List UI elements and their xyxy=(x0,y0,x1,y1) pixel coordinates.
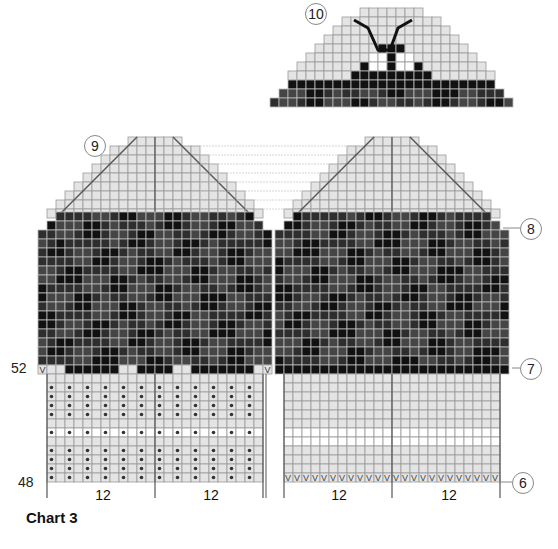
chart-cell xyxy=(500,239,509,248)
chart-cell xyxy=(302,275,311,284)
purl-dot xyxy=(212,458,216,462)
chart-cell xyxy=(227,248,236,257)
chart-cell xyxy=(200,338,209,347)
chart-cell xyxy=(200,212,209,221)
chart-cell xyxy=(410,182,419,191)
chart-cell xyxy=(446,365,455,374)
chart-cell xyxy=(329,446,338,455)
chart-cell xyxy=(383,374,392,383)
chart-cell xyxy=(392,374,401,383)
chart-cell xyxy=(137,239,146,248)
chart-cell xyxy=(401,338,410,347)
chart-cell xyxy=(437,284,446,293)
chart-cell xyxy=(405,26,414,35)
chart-cell xyxy=(419,446,428,455)
chart-cell xyxy=(155,329,164,338)
purl-dot xyxy=(68,431,72,435)
chart-cell xyxy=(293,248,302,257)
chart-cell xyxy=(360,53,369,62)
chart-cell xyxy=(146,365,155,374)
chart-cell xyxy=(311,356,320,365)
chart-cell xyxy=(191,284,200,293)
chart-cell xyxy=(128,338,137,347)
chart-cell xyxy=(270,98,279,107)
chart-cell xyxy=(56,446,65,455)
chart-cell xyxy=(455,401,464,410)
chart-cell xyxy=(101,293,110,302)
chart-cell xyxy=(315,89,324,98)
chart-cell xyxy=(347,383,356,392)
chart-cell xyxy=(351,89,360,98)
chart-cell xyxy=(182,401,191,410)
chart-cell xyxy=(500,347,509,356)
repeat-label-1: 12 xyxy=(73,487,133,503)
chart-cell xyxy=(374,173,383,182)
chart-cell xyxy=(459,44,468,53)
chart-cell xyxy=(464,182,473,191)
chart-cell xyxy=(441,62,450,71)
chart-cell xyxy=(254,347,263,356)
chart-cell xyxy=(356,275,365,284)
chart-cell xyxy=(446,248,455,257)
chart-cell xyxy=(437,329,446,338)
chart-cell xyxy=(468,89,477,98)
chart-cell xyxy=(338,320,347,329)
chart-cell xyxy=(347,173,356,182)
purl-dot xyxy=(212,476,216,480)
chart-cell xyxy=(369,62,378,71)
chart-cell xyxy=(209,320,218,329)
chart-cell xyxy=(110,329,119,338)
chart-cell xyxy=(320,464,329,473)
chart-cell xyxy=(428,182,437,191)
chart-cell xyxy=(128,401,137,410)
chart-cell xyxy=(245,275,254,284)
chart-cell xyxy=(410,200,419,209)
chart-cell xyxy=(392,428,401,437)
chart-cell xyxy=(164,410,173,419)
slip-stitch-symbol: V xyxy=(339,473,345,483)
chart-cell xyxy=(200,419,209,428)
chart-cell xyxy=(155,137,164,146)
purl-dot xyxy=(140,404,144,408)
chart-cell xyxy=(455,257,464,266)
chart-cell xyxy=(137,230,146,239)
chart-cell xyxy=(342,35,351,44)
chart-cell xyxy=(437,191,446,200)
chart-cell xyxy=(383,284,392,293)
chart-cell xyxy=(419,311,428,320)
chart-cell xyxy=(441,71,450,80)
chart-cell xyxy=(83,419,92,428)
chart-cell xyxy=(164,266,173,275)
chart-cell xyxy=(455,383,464,392)
chart-cell xyxy=(491,275,500,284)
chart-cell xyxy=(128,212,137,221)
chart-cell xyxy=(405,80,414,89)
chart-cell xyxy=(482,374,491,383)
chart-cell xyxy=(396,8,405,17)
chart-cell xyxy=(227,365,236,374)
chart-cell xyxy=(410,293,419,302)
chart-cell xyxy=(446,320,455,329)
chart-cell xyxy=(437,221,446,230)
chart-cell xyxy=(110,302,119,311)
chart-cell xyxy=(65,437,74,446)
chart-cell xyxy=(342,53,351,62)
chart-cell xyxy=(446,419,455,428)
purl-dot xyxy=(176,476,180,480)
chart-cell xyxy=(342,62,351,71)
chart-cell xyxy=(56,230,65,239)
chart-cell xyxy=(383,257,392,266)
chart-cell xyxy=(284,437,293,446)
chart-cell xyxy=(356,374,365,383)
chart-cell xyxy=(392,155,401,164)
chart-cell xyxy=(383,221,392,230)
chart-cell xyxy=(333,62,342,71)
chart-cell xyxy=(419,191,428,200)
chart-cell xyxy=(369,53,378,62)
purl-dot xyxy=(68,386,72,390)
chart-cell xyxy=(38,356,47,365)
chart-cell xyxy=(155,164,164,173)
chart-cell xyxy=(83,437,92,446)
purl-dot xyxy=(176,404,180,408)
chart-cell xyxy=(92,410,101,419)
